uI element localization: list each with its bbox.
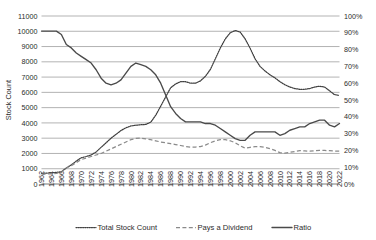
y-tick-label: 10000 <box>18 27 38 36</box>
x-tick-label: 1992 <box>186 171 195 187</box>
legend-label: Ratio <box>294 223 312 232</box>
y-axis-ticks: 0100020003000400050006000700080009000100… <box>18 12 38 189</box>
x-tick-label: 1988 <box>166 171 175 187</box>
chart-legend: Total Stock CountPays a DividendRatio <box>76 223 311 232</box>
x-tick-label: 1970 <box>77 171 86 187</box>
x-tick-label: 1976 <box>107 171 116 187</box>
y-tick-label: 7000 <box>22 73 38 82</box>
x-tick-label: 2022 <box>335 171 344 187</box>
x-tick-label: 1998 <box>216 171 225 187</box>
x-tick-label: 2014 <box>295 171 304 187</box>
x-tick-label: 2004 <box>246 171 255 187</box>
y2-tick-label: 50% <box>344 96 359 105</box>
y2-tick-label: 80% <box>344 45 359 54</box>
y-tick-label: 8000 <box>22 57 38 66</box>
y2-axis-ticks: 0%10%20%30%40%50%60%70%80%90%100% <box>344 12 363 189</box>
x-tick-label: 2000 <box>226 171 235 187</box>
y2-tick-label: 60% <box>344 79 359 88</box>
x-tick-label: 1978 <box>117 171 126 187</box>
x-tick-label: 1994 <box>196 171 205 187</box>
x-tick-label: 1996 <box>206 171 215 187</box>
x-axis-ticks: 1962196419661968197019721974197619781980… <box>37 171 344 187</box>
series-group <box>42 31 340 175</box>
x-tick-label: 2018 <box>315 171 324 187</box>
x-tick-label: 1982 <box>136 171 145 187</box>
x-tick-label: 1968 <box>67 171 76 187</box>
x-tick-label: 2002 <box>236 171 245 187</box>
x-tick-label: 1990 <box>176 171 185 187</box>
y2-tick-label: 0% <box>344 180 355 189</box>
x-tick-label: 2020 <box>325 171 334 187</box>
x-tick-label: 1980 <box>127 171 136 187</box>
dividend-stock-count-chart: 0100020003000400050006000700080009000100… <box>0 0 376 240</box>
x-tick-label: 1966 <box>57 171 66 187</box>
y2-tick-label: 10% <box>344 163 359 172</box>
x-tick-label: 1974 <box>97 171 106 187</box>
x-tick-label: 1972 <box>87 171 96 187</box>
y-tick-label: 9000 <box>22 42 38 51</box>
y-tick-label: 4000 <box>22 119 38 128</box>
chart-container: 0100020003000400050006000700080009000100… <box>0 0 376 240</box>
y2-tick-label: 40% <box>344 112 359 121</box>
y2-tick-label: 90% <box>344 28 359 37</box>
y2-tick-label: 70% <box>344 62 359 71</box>
gridlines <box>42 16 340 184</box>
x-tick-label: 2008 <box>266 171 275 187</box>
x-tick-label: 1984 <box>146 171 155 187</box>
x-tick-label: 2012 <box>285 171 294 187</box>
y-tick-label: 6000 <box>22 88 38 97</box>
y-tick-label: 11000 <box>18 12 37 21</box>
x-tick-label: 2016 <box>305 171 314 187</box>
series-line-total-stock-count <box>42 31 340 174</box>
y2-tick-label: 30% <box>344 129 359 138</box>
legend-label: Pays a Dividend <box>198 223 253 232</box>
y-tick-label: 2000 <box>22 149 38 158</box>
legend-label: Total Stock Count <box>98 223 158 232</box>
y-tick-label: 1000 <box>22 164 38 173</box>
y2-tick-label: 20% <box>344 146 359 155</box>
series-line-ratio <box>42 31 340 140</box>
y-axis-title: Stock Count <box>4 80 13 120</box>
y-tick-label: 5000 <box>22 103 38 112</box>
y2-tick-label: 100% <box>344 12 363 21</box>
x-tick-label: 2006 <box>256 171 265 187</box>
x-tick-label: 2010 <box>276 171 285 187</box>
y-tick-label: 3000 <box>22 134 38 143</box>
x-tick-label: 1986 <box>156 171 165 187</box>
